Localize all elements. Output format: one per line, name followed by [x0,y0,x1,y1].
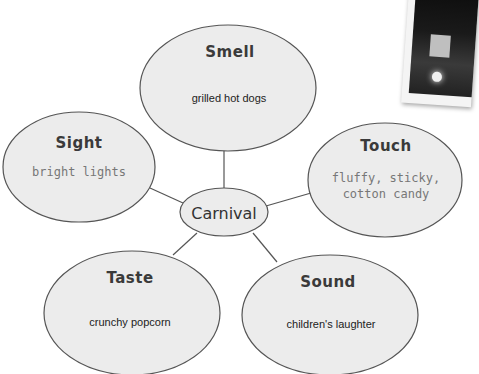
sound-detail: children's laughter [287,318,376,330]
sight-title: Sight [55,134,102,152]
smell-detail: grilled hot dogs [192,92,267,104]
sound-title: Sound [300,273,356,291]
connector-sight [150,188,183,203]
sight-detail: bright lights [32,164,126,180]
touch-detail-line2: cotton candy [343,186,430,202]
connector-sound [253,233,277,262]
connector-touch [266,193,311,206]
connector-taste [173,233,197,255]
touch-detail-line1: fluffy, sticky, [332,170,440,186]
taste-title: Taste [106,269,153,287]
touch-title: Touch [360,137,411,155]
carnival-label: Carnival [191,204,257,223]
smell-title: Smell [205,43,254,61]
taste-detail: crunchy popcorn [89,316,170,328]
